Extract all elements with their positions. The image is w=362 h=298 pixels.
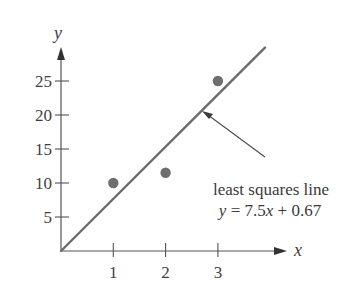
y-tick-label: 15 [35,140,52,159]
eq-y: y [217,201,227,220]
data-points [108,76,223,188]
y-tick-label: 20 [35,106,52,125]
eq-part2: + 0.67 [273,201,321,220]
scatter-chart: yx 510152025123 least squares line y = 7… [0,0,362,298]
x-tick-label: 2 [161,263,170,282]
data-point [160,168,170,178]
annotation-arrow [208,115,265,157]
y-tick-label: 5 [44,208,53,227]
x-tick-label: 1 [109,263,118,282]
y-tick-label: 10 [35,174,52,193]
y-tick-label: 25 [35,72,52,91]
least-squares-line [61,48,265,251]
axes: yx [52,23,302,260]
data-point [213,76,223,86]
data-point [108,178,118,188]
annotation-equation: y = 7.5x + 0.67 [217,201,322,220]
fit-line-path [61,48,265,251]
x-tick-label: 3 [214,263,223,282]
x-axis-label: x [293,240,302,260]
x-axis-arrow-icon [274,247,287,255]
y-axis-label: y [52,23,62,43]
y-axis-arrow-icon [57,47,65,60]
annotation-title: least squares line [213,180,329,199]
eq-part: = 7.5 [226,201,265,220]
annotation: least squares line y = 7.5x + 0.67 [202,111,329,220]
